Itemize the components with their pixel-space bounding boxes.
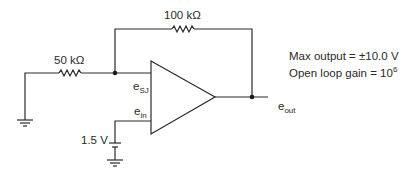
ground-symbol-left <box>17 120 33 126</box>
summing-junction-subscript: SJ <box>139 86 148 95</box>
open-loop-gain-text: Open loop gain = 10 <box>289 67 393 79</box>
summing-junction-label: eSJ <box>133 81 149 93</box>
circuit-schematic <box>0 0 406 176</box>
output-label: eout <box>278 101 296 113</box>
noninverting-input-wire <box>115 121 151 143</box>
feedback-wire <box>115 29 172 73</box>
feedback-resistor-zigzag <box>172 26 194 32</box>
battery-label: 1.5 V <box>81 135 108 147</box>
output-junction-dot <box>250 95 255 100</box>
max-output-spec: Max output = ±10.0 V <box>289 51 399 63</box>
battery-symbol <box>109 143 121 147</box>
feedback-resistor-label: 100 kΩ <box>164 10 201 22</box>
input-resistor-zigzag <box>59 70 81 76</box>
noninverting-input-subscript: in <box>140 111 146 120</box>
op-amp-triangle <box>151 61 215 134</box>
input-wire-left <box>25 73 59 120</box>
noninverting-input-label: ein <box>134 106 147 118</box>
feedback-wire-right <box>194 29 252 97</box>
ground-symbol-battery <box>107 160 123 166</box>
summing-junction-dot <box>113 71 118 76</box>
output-subscript: out <box>284 106 295 115</box>
open-loop-gain-exponent: 6 <box>393 65 397 74</box>
open-loop-gain-spec: Open loop gain = 106 <box>289 68 397 80</box>
input-resistor-label: 50 kΩ <box>54 55 84 67</box>
